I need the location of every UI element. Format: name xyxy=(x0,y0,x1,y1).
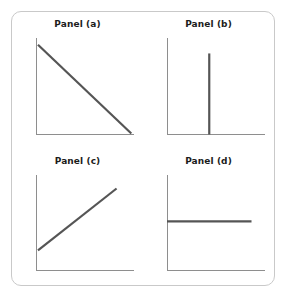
panel-d-plot-area xyxy=(167,175,265,272)
panel-c-data-layer xyxy=(36,175,134,272)
panel-grid: Panel (a) Panel (b) Panel (c) xyxy=(12,12,274,285)
panel-a-data-line xyxy=(38,45,131,134)
figure-frame: Panel (a) Panel (b) Panel (c) xyxy=(11,11,275,286)
panel-b-data-layer xyxy=(167,38,265,135)
panel-b-title: Panel (b) xyxy=(143,19,274,29)
panel-a-title: Panel (a) xyxy=(12,19,143,29)
panel-a-data-layer xyxy=(36,38,134,135)
panel-d: Panel (d) xyxy=(143,149,274,286)
panel-a: Panel (a) xyxy=(12,12,143,149)
panel-a-plot-area xyxy=(36,38,134,135)
panel-d-title: Panel (d) xyxy=(143,156,274,166)
panel-d-data-layer xyxy=(167,175,265,272)
panel-c-data-line xyxy=(38,188,117,250)
panel-c-title: Panel (c) xyxy=(12,156,143,166)
panel-b: Panel (b) xyxy=(143,12,274,149)
panel-c-plot-area xyxy=(36,175,134,272)
panel-b-plot-area xyxy=(167,38,265,135)
panel-c: Panel (c) xyxy=(12,149,143,286)
